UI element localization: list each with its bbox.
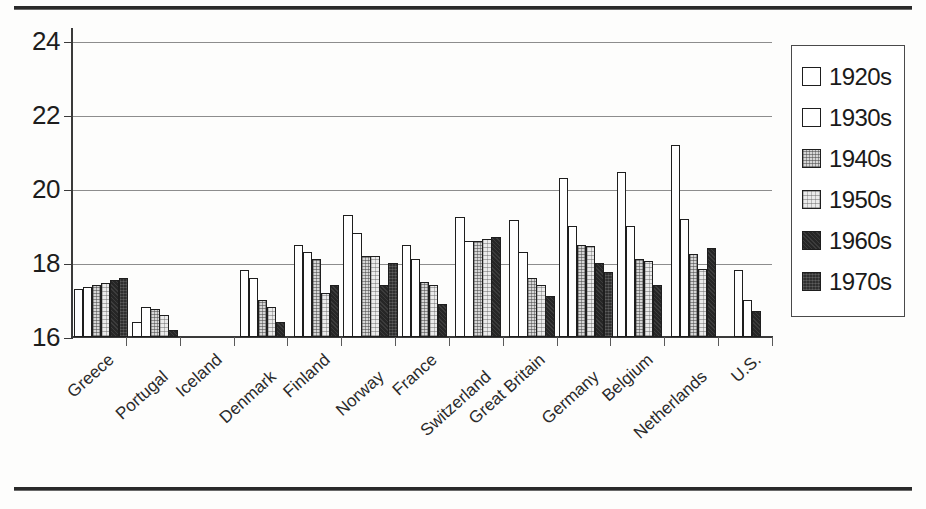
legend-label: 1940s <box>829 147 891 171</box>
bar <box>168 330 178 337</box>
x-tick-mark <box>664 337 665 346</box>
y-tick-mark-18 <box>64 264 73 265</box>
y-tick-label-20: 20 <box>32 176 60 202</box>
legend-item: 1950s <box>802 179 904 220</box>
bar <box>545 296 555 337</box>
x-tick-mark <box>610 337 611 346</box>
y-tick-label-24: 24 <box>32 28 60 54</box>
legend-item: 1940s <box>802 138 904 179</box>
x-tick-mark <box>718 337 719 346</box>
x-tick-mark <box>180 337 181 346</box>
y-axis-line <box>71 28 73 338</box>
x-axis-label: Germany <box>538 367 603 429</box>
bar-group <box>734 41 761 337</box>
bar-group <box>74 41 128 337</box>
bar-group <box>509 41 554 337</box>
legend-swatch-icon <box>802 67 821 86</box>
legend-label: 1970s <box>829 270 891 294</box>
x-axis-label: Finland <box>279 350 334 402</box>
legend-label: 1960s <box>829 229 891 253</box>
bar-group <box>617 41 662 337</box>
bar-group <box>204 41 213 337</box>
y-tick-mark-22 <box>64 116 73 117</box>
y-tick-label-18: 18 <box>32 250 60 276</box>
x-axis-label: Iceland <box>172 350 226 402</box>
x-tick-mark <box>772 337 773 346</box>
bar <box>438 304 448 337</box>
legend-swatch-icon <box>802 231 821 250</box>
y-tick-mark-24 <box>64 42 73 43</box>
x-tick-mark <box>126 337 127 346</box>
legend-swatch-icon <box>802 272 821 291</box>
bar-group <box>402 41 447 337</box>
bar <box>653 285 663 337</box>
bar-group <box>240 41 285 337</box>
legend-item: 1930s <box>802 97 904 138</box>
bar-group <box>294 41 339 337</box>
bar-chart-figure: 1618202224 GreecePortugalIcelandDenmarkF… <box>0 0 926 509</box>
x-axis-label: Denmark <box>216 367 281 428</box>
bar <box>276 322 286 337</box>
legend-swatch-icon <box>802 149 821 168</box>
bar-group <box>671 41 716 337</box>
x-tick-mark <box>395 337 396 346</box>
legend-item: 1970s <box>802 261 904 302</box>
legend-label: 1950s <box>829 188 891 212</box>
y-tick-mark-16 <box>64 338 73 339</box>
bar-group <box>343 41 397 337</box>
bar <box>707 248 717 337</box>
legend-item: 1920s <box>802 56 904 97</box>
plot-area: 1618202224 <box>72 42 772 338</box>
x-axis-label: Norway <box>332 367 388 420</box>
bar <box>388 263 398 337</box>
legend-label: 1920s <box>829 65 891 89</box>
x-axis-labels: GreecePortugalIcelandDenmarkFinlandNorwa… <box>72 346 772 466</box>
x-tick-mark <box>557 337 558 346</box>
bar <box>752 311 762 337</box>
y-tick-label-16: 16 <box>32 324 60 350</box>
bar-group <box>559 41 613 337</box>
x-axis-label: Portugal <box>112 367 172 424</box>
y-tick-label-22: 22 <box>32 102 60 128</box>
x-tick-mark <box>503 337 504 346</box>
x-tick-mark <box>234 337 235 346</box>
x-axis-label: Belgium <box>598 350 657 406</box>
y-tick-mark-20 <box>64 190 73 191</box>
x-tick-mark <box>449 337 450 346</box>
bar <box>604 272 614 337</box>
legend-label: 1930s <box>829 106 891 130</box>
bar <box>491 237 501 337</box>
x-tick-mark <box>287 337 288 346</box>
legend-item: 1960s <box>802 220 904 261</box>
bar-group <box>455 41 500 337</box>
x-tick-mark <box>341 337 342 346</box>
x-axis-label: Greece <box>64 350 119 402</box>
x-axis-label: France <box>389 350 442 400</box>
x-axis-label: U.S. <box>727 350 765 387</box>
legend-swatch-icon <box>802 108 821 127</box>
bar-group <box>132 41 177 337</box>
bar <box>119 278 129 337</box>
bar <box>330 285 340 337</box>
legend-swatch-icon <box>802 190 821 209</box>
legend: 1920s1930s1940s1950s1960s1970s <box>791 45 905 317</box>
